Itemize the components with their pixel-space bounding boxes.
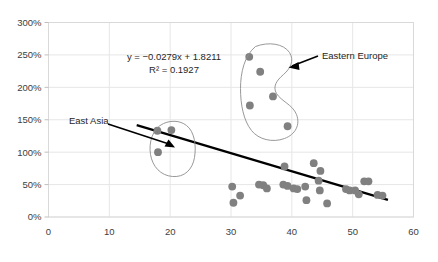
data-point <box>323 199 331 207</box>
x-tick-label: 60 <box>408 226 419 237</box>
data-point <box>379 192 387 200</box>
data-point <box>293 185 301 193</box>
y-tick-label: 300% <box>17 17 42 28</box>
data-point <box>303 196 311 204</box>
data-point <box>228 183 236 191</box>
x-tick-label: 10 <box>104 226 115 237</box>
east-asia-annotation-label: East Asia <box>69 115 109 126</box>
data-point <box>246 102 254 110</box>
y-tick-label: 200% <box>17 82 42 93</box>
data-point <box>263 185 271 193</box>
data-point <box>317 167 325 175</box>
data-point <box>256 68 264 76</box>
x-tick-label: 30 <box>226 226 237 237</box>
data-point <box>167 126 175 134</box>
x-tick-label: 50 <box>347 226 358 237</box>
data-point <box>315 177 323 185</box>
y-tick-label: 250% <box>17 49 42 60</box>
trendline-equation-label: y = −0.0279x + 1.8211 <box>127 51 221 62</box>
y-tick-label: 100% <box>17 147 42 158</box>
data-point <box>365 177 373 185</box>
chart-canvas: 0%50%100%150%200%250%300% 0102030405060 … <box>0 0 438 262</box>
data-point <box>281 163 289 171</box>
trendline-r2-label: R² = 0.1927 <box>149 64 199 75</box>
data-point <box>245 53 253 61</box>
data-point <box>316 187 324 195</box>
data-point <box>269 93 277 101</box>
y-tick-label: 150% <box>17 114 42 125</box>
data-point <box>355 190 363 198</box>
y-tick-label: 50% <box>22 179 42 190</box>
data-point <box>236 192 244 200</box>
x-tick-label: 20 <box>165 226 176 237</box>
eastern-europe-annotation-label: Eastern Europe <box>322 50 388 61</box>
data-point <box>284 122 292 130</box>
y-tick-label: 0% <box>28 211 42 222</box>
chart-background <box>0 0 438 262</box>
data-point <box>230 199 238 207</box>
x-tick-label: 0 <box>46 226 51 237</box>
data-point <box>301 183 309 191</box>
data-point <box>154 148 162 156</box>
data-point <box>310 159 318 167</box>
scatter-chart: 0%50%100%150%200%250%300% 0102030405060 … <box>0 0 438 262</box>
x-tick-label: 40 <box>287 226 298 237</box>
